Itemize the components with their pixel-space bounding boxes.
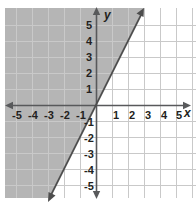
graph-svg: -5 -4 -3 -2 -1 1 2 3 4 5 5 4 3 2 1 -1 -2… — [0, 0, 196, 210]
y-tick-labels-negative: -1 -2 -3 -4 -5 — [84, 116, 95, 192]
x-tick--2: -2 — [60, 109, 70, 121]
y-tick-5: 5 — [86, 19, 92, 31]
x-tick--5: -5 — [12, 109, 22, 121]
y-tick-2: 2 — [86, 67, 92, 79]
y-tick-labels-positive: 5 4 3 2 1 — [86, 19, 93, 95]
x-tick--4: -4 — [28, 109, 39, 121]
y-tick--1: -1 — [84, 116, 94, 128]
y-tick-4: 4 — [86, 35, 93, 47]
y-tick--4: -4 — [84, 164, 95, 176]
x-tick-2: 2 — [129, 109, 135, 121]
x-tick-1: 1 — [113, 109, 119, 121]
x-axis-label: x — [183, 106, 192, 120]
y-tick--2: -2 — [84, 132, 94, 144]
y-tick--3: -3 — [84, 148, 94, 160]
coordinate-plane-graph: -5 -4 -3 -2 -1 1 2 3 4 5 5 4 3 2 1 -1 -2… — [0, 0, 196, 210]
x-tick-3: 3 — [145, 109, 151, 121]
x-tick-4: 4 — [161, 109, 168, 121]
y-tick-3: 3 — [86, 51, 92, 63]
y-axis-label: y — [103, 8, 112, 22]
y-tick--5: -5 — [84, 180, 94, 192]
y-tick-1: 1 — [86, 83, 92, 95]
x-tick-5: 5 — [176, 109, 182, 121]
x-tick--3: -3 — [44, 109, 54, 121]
